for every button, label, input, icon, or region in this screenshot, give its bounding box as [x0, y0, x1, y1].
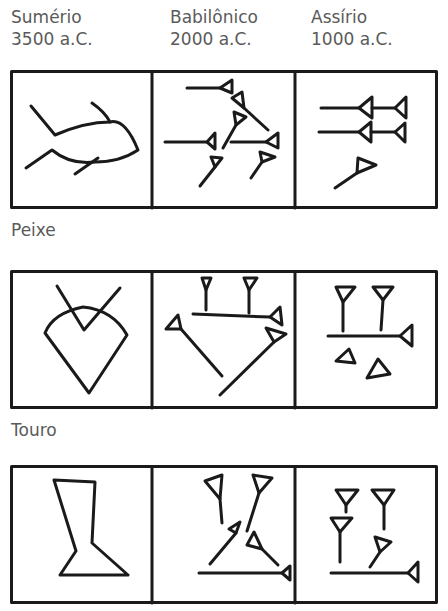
- glyph-row-vessel: [10, 465, 438, 603]
- bull-pictograph-icon: [45, 286, 127, 393]
- fish-babylonian-icon: [165, 80, 278, 186]
- column-header-sumerian: Sumério 3500 a.C.: [11, 6, 93, 50]
- culture-name: Babilônico: [170, 6, 258, 28]
- period-date: 3500 a.C.: [11, 28, 93, 50]
- bull-babylonian-icon: [166, 278, 286, 395]
- column-header-assyrian: Assírio 1000 a.C.: [311, 6, 393, 50]
- vessel-assyrian-icon: [331, 490, 418, 582]
- glyph-row-bull: [10, 270, 438, 408]
- column-header-babylonian: Babilônico 2000 a.C.: [170, 6, 258, 50]
- bull-assyrian-icon: [328, 287, 412, 378]
- culture-name: Sumério: [11, 6, 93, 28]
- period-date: 2000 a.C.: [170, 28, 258, 50]
- fish-assyrian-icon: [319, 97, 406, 188]
- vessel-pictograph-icon: [54, 480, 128, 575]
- fish-pictograph-icon: [26, 103, 138, 174]
- culture-name: Assírio: [311, 6, 393, 28]
- row-label-bull: Touro: [11, 420, 57, 440]
- period-date: 1000 a.C.: [311, 28, 393, 50]
- row-label-fish: Peixe: [11, 220, 56, 240]
- glyph-row-fish: [10, 70, 438, 208]
- vessel-babylonian-icon: [199, 475, 290, 580]
